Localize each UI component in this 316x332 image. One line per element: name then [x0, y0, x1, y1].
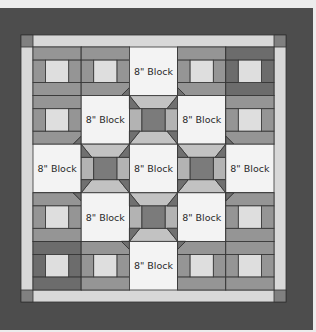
- rail-bottom-band: [226, 82, 274, 95]
- quilt-block-rail: [178, 47, 226, 96]
- block-label: 8" Block: [182, 212, 222, 223]
- quilt-block-snowball: [129, 96, 177, 145]
- rail-bottom-band: [178, 82, 226, 95]
- rail-side: [213, 255, 226, 277]
- rail-top-band: [178, 47, 226, 60]
- rail-top-band: [81, 47, 129, 60]
- rail-top-band: [226, 96, 274, 109]
- block-label: 8" Block: [38, 163, 78, 174]
- rail-bottom-band: [33, 131, 81, 144]
- corner-square: [21, 35, 33, 47]
- rail-side: [178, 255, 191, 277]
- quilt-block-rail: [81, 241, 129, 290]
- snowball-center: [142, 206, 165, 228]
- quilt-block-rail-dark: [33, 241, 81, 290]
- rail-top-band: [33, 96, 81, 109]
- corner-square: [274, 290, 286, 302]
- rail-side: [226, 60, 239, 82]
- block-label: 8" Block: [182, 114, 222, 125]
- rail-side: [69, 109, 82, 131]
- rail-side: [261, 60, 274, 82]
- rail-bottom-band: [178, 277, 226, 290]
- rail-side: [261, 109, 274, 131]
- quilt-block-rail: [33, 193, 81, 242]
- corner-square: [274, 35, 286, 47]
- rail-bottom-band: [226, 228, 274, 241]
- snowball-side: [129, 109, 142, 131]
- rail-side: [226, 255, 239, 277]
- rail-bottom-band: [226, 277, 274, 290]
- block-label: 8" Block: [230, 163, 270, 174]
- snowball-side: [165, 109, 178, 131]
- rail-bottom-band: [81, 277, 129, 290]
- rail-side: [33, 206, 46, 228]
- quilt-blocks: 8" Block8" Block8" Block8" Block8" Block…: [33, 47, 274, 290]
- rail-center: [46, 255, 69, 277]
- quilt-block-rail: [226, 241, 274, 290]
- rail-bottom-band: [33, 277, 81, 290]
- snowball-side: [81, 157, 94, 179]
- rail-side: [261, 255, 274, 277]
- rail-center: [238, 109, 261, 131]
- rail-center: [190, 60, 213, 82]
- rail-bottom-band: [226, 131, 274, 144]
- corner-square: [21, 290, 33, 302]
- quilt-block-rail: [33, 96, 81, 145]
- rail-top-band: [226, 193, 274, 206]
- quilt-block-snowball: [129, 193, 177, 242]
- quilt-block-snowball: [81, 144, 129, 193]
- rail-bottom-band: [81, 82, 129, 95]
- snowball-side: [129, 206, 142, 228]
- snowball-center: [190, 157, 213, 179]
- block-label: 8" Block: [86, 212, 126, 223]
- rail-side: [69, 60, 82, 82]
- snowball-side: [213, 157, 226, 179]
- rail-side: [261, 206, 274, 228]
- rail-top-band: [33, 47, 81, 60]
- snowball-side: [117, 157, 130, 179]
- rail-center: [94, 255, 117, 277]
- rail-top-band: [33, 193, 81, 206]
- quilt-block-rail: [33, 47, 81, 96]
- snowball-center: [94, 157, 117, 179]
- rail-center: [46, 206, 69, 228]
- quilt-block-rail-dark: [226, 47, 274, 96]
- rail-top-band: [33, 241, 81, 254]
- rail-center: [46, 109, 69, 131]
- block-label: 8" Block: [134, 163, 174, 174]
- rail-center: [238, 255, 261, 277]
- rail-side: [226, 206, 239, 228]
- snowball-center: [142, 109, 165, 131]
- quilt-block-rail: [226, 193, 274, 242]
- rail-top-band: [178, 241, 226, 254]
- rail-side: [117, 255, 130, 277]
- rail-side: [81, 60, 94, 82]
- rail-center: [94, 60, 117, 82]
- rail-bottom-band: [33, 82, 81, 95]
- rail-center: [190, 255, 213, 277]
- rail-side: [213, 60, 226, 82]
- rail-top-band: [81, 241, 129, 254]
- quilt-block-rail: [81, 47, 129, 96]
- quilt-block-rail: [226, 96, 274, 145]
- rail-side: [33, 60, 46, 82]
- rail-center: [238, 206, 261, 228]
- rail-side: [226, 109, 239, 131]
- rail-side: [81, 255, 94, 277]
- quilt-block-snowball: [178, 144, 226, 193]
- snowball-side: [178, 157, 191, 179]
- rail-bottom-band: [33, 228, 81, 241]
- block-label: 8" Block: [134, 260, 174, 271]
- rail-center: [238, 60, 261, 82]
- quilt-block-rail: [178, 241, 226, 290]
- block-label: 8" Block: [86, 114, 126, 125]
- rail-side: [178, 60, 191, 82]
- rail-side: [69, 255, 82, 277]
- quilt-diagram: 8" Block8" Block8" Block8" Block8" Block…: [0, 0, 316, 332]
- rail-center: [46, 60, 69, 82]
- rail-top-band: [226, 47, 274, 60]
- rail-side: [69, 206, 82, 228]
- rail-top-band: [226, 241, 274, 254]
- rail-side: [117, 60, 130, 82]
- rail-side: [33, 255, 46, 277]
